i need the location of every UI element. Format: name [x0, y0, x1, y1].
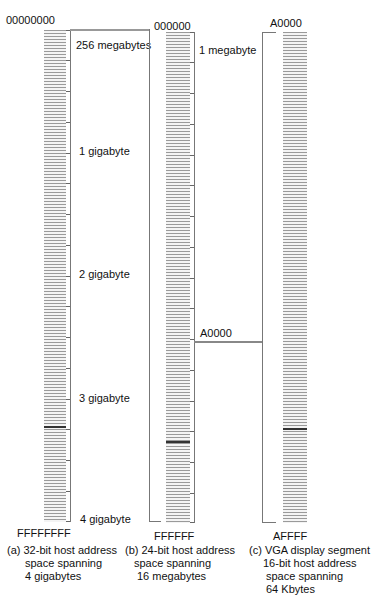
col-b-top-address: 000000 [154, 20, 191, 32]
col-c-caption-line-2: 16-bit host address [263, 557, 357, 570]
col-b-tick [190, 370, 194, 371]
col-b-tick [190, 62, 194, 63]
col-a-bottom-address: FFFFFFFF [17, 527, 71, 539]
connector-a-to-b-bottom [149, 521, 161, 522]
col-b-caption-line-2: space spanning [134, 557, 211, 570]
col-b-tick [190, 93, 194, 94]
col-a-caption-line-3: 4 gigabytes [25, 570, 81, 583]
scale-label-1mb: 1 megabyte [199, 44, 256, 56]
scale-label-4gb: 4 gigabyte [80, 513, 131, 525]
col-b-tick [190, 32, 194, 33]
col-b-tick [190, 155, 194, 156]
col-a-highlight-band [44, 426, 66, 428]
col-a-tick [66, 153, 70, 154]
col-b-tick [190, 124, 194, 125]
col-b-tick [190, 247, 194, 248]
col-a-tick [66, 399, 70, 400]
col-a-tick [66, 245, 70, 246]
col-c-address-bar [283, 32, 307, 523]
col-a-caption-line-1: (a) 32-bit host address [7, 544, 117, 557]
col-b-tick [190, 278, 194, 279]
col-a-tick [66, 491, 70, 492]
col-a-tick [66, 183, 70, 184]
col-b-tick [190, 216, 194, 217]
col-a-tick [66, 276, 70, 277]
col-b-scale-line [194, 32, 195, 523]
connector-b-to-c-top [194, 341, 262, 343]
scale-label-256mb: 256 megabytes [76, 39, 151, 51]
col-c-highlight-band [283, 428, 307, 430]
col-a-tick [66, 429, 70, 430]
col-b-tick [190, 462, 194, 463]
col-c-caption-line-1: (c) VGA display segment [249, 544, 370, 557]
col-c-top-address: A0000 [270, 17, 302, 29]
col-b-tick [190, 401, 194, 402]
col-c-caption-line-3: space spanning [266, 570, 343, 583]
col-a-tick [66, 460, 70, 461]
connector-a-to-b-side [149, 29, 150, 521]
col-b-tick [190, 493, 194, 494]
col-b-caption-line-1: (b) 24-bit host address [125, 544, 235, 557]
col-a-tick [66, 91, 70, 92]
col-c-bracket-left [262, 32, 263, 523]
col-b-tick [190, 431, 194, 432]
scale-label-1gb: 1 gigabyte [79, 145, 130, 157]
col-b-bottom-address: FFFFFF [154, 530, 194, 542]
col-b-tick [190, 522, 194, 523]
col-a-tick [66, 122, 70, 123]
col-b-tick [190, 339, 194, 340]
col-a-tick [66, 306, 70, 307]
col-a-tick [66, 60, 70, 61]
col-b-caption-line-3: 16 megabytes [137, 570, 206, 583]
col-a-tick [66, 521, 70, 522]
col-b-mid-address: A0000 [200, 327, 232, 339]
col-a-tick [66, 214, 70, 215]
col-c-bracket-bottom [262, 522, 276, 523]
col-a-caption-line-2: space spanning [25, 557, 102, 570]
col-b-tick [190, 308, 194, 309]
col-a-scale-line [70, 30, 71, 522]
col-a-tick [66, 337, 70, 338]
col-b-address-bar [166, 32, 190, 523]
col-a-address-bar [44, 30, 66, 522]
col-b-tick [190, 185, 194, 186]
col-c-caption-line-4: 64 Kbytes [266, 583, 315, 596]
scale-label-3gb: 3 gigabyte [79, 392, 130, 404]
col-b-highlight-band [166, 441, 190, 443]
col-c-bottom-address: AFFFF [273, 530, 307, 542]
col-c-bracket-top [262, 32, 276, 33]
connector-a-to-b-top [70, 29, 150, 31]
scale-label-2gb: 2 gigabyte [79, 268, 130, 280]
col-a-tick [66, 368, 70, 369]
col-a-top-address: 00000000 [6, 14, 55, 26]
